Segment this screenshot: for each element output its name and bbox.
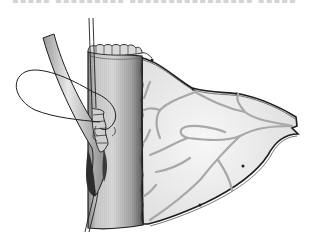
mesentery bbox=[142, 58, 298, 226]
surgical-illustration bbox=[0, 0, 309, 243]
